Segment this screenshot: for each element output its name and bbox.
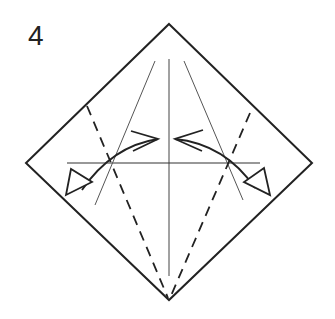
left-arrow-chevron-icon: [131, 131, 158, 151]
right-arrow-hollow-head-icon: [244, 168, 270, 195]
left-diagonal-crease: [95, 61, 155, 205]
origami-diagram: [0, 0, 335, 319]
left-arrow-hollow-head-icon: [66, 169, 92, 195]
right-diagonal-crease: [184, 61, 243, 200]
left-valley-fold: [87, 106, 168, 298]
